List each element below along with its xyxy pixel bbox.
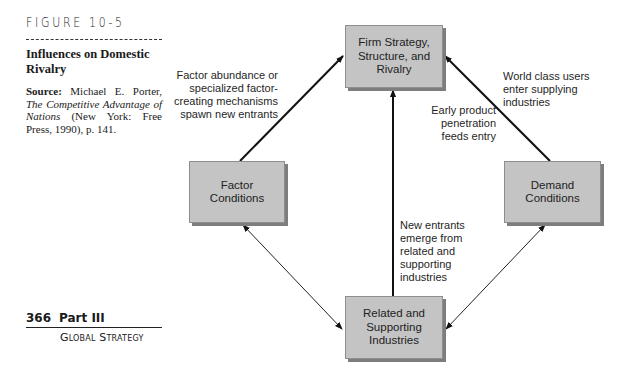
annotation-early-product: Early product penetration feeds entry xyxy=(424,104,496,143)
node-related-supporting: Related and Supporting Industries xyxy=(345,296,443,359)
node-demand-conditions: Demand Conditions xyxy=(504,161,601,223)
node-firm-strategy: Firm Strategy, Structure, and Rivalry xyxy=(345,25,443,88)
annotation-related-to-firm: New entrants emerge from related and sup… xyxy=(400,219,472,284)
annotation-factor-to-firm: Factor abundance or specialized factor-c… xyxy=(170,69,278,121)
annotation-demand-to-firm: World class users enter supplying indust… xyxy=(503,70,603,109)
arrow-factor-related xyxy=(243,225,342,329)
node-factor-conditions: Factor Conditions xyxy=(189,161,285,223)
